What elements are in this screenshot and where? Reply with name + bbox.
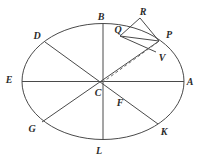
point-label-A: A [187,77,194,87]
point-label-G: G [28,124,35,134]
point-label-K: K [161,127,168,137]
point-label-C: C [95,88,102,98]
point-label-L: L [96,146,102,156]
point-label-D: D [33,31,40,41]
segment-D-K [45,42,158,124]
point-label-Q: Q [114,25,121,35]
segment-R-Q [120,18,140,36]
point-label-B: B [98,12,105,22]
figure-canvas [0,0,207,162]
point-label-E: E [6,75,13,85]
point-label-P: P [166,30,172,40]
segment-R-P [140,18,159,41]
point-label-F: F [117,98,124,108]
point-label-R: R [140,7,147,17]
point-label-V: V [159,53,166,63]
geometry-figure: D B R Q P V E A C F G K L [0,0,207,162]
